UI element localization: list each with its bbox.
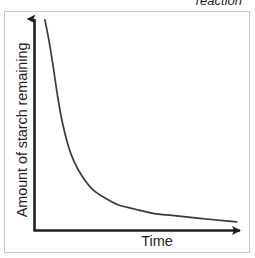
x-axis-label: Time [97,232,217,250]
figure-container: reaction Amount of starch remaining Time [0,0,255,258]
chart-plot [0,0,255,258]
decay-curve [45,20,237,222]
y-axis-label: Amount of starch remaining [12,25,32,235]
